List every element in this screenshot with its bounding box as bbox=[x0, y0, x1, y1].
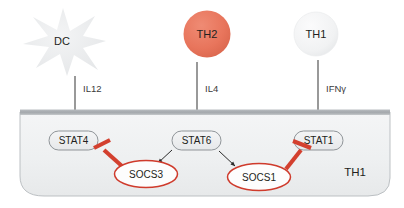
source-cell-th2: TH2 bbox=[184, 11, 231, 58]
stat-node-stat4: STAT4 bbox=[49, 131, 98, 150]
ifng-label: IFNγ bbox=[326, 83, 346, 94]
socs-node-socs1: SOCS1 bbox=[228, 164, 291, 191]
stat-node-stat1: STAT1 bbox=[294, 131, 343, 150]
th1-compartment-label: TH1 bbox=[344, 166, 366, 178]
il4-label: IL4 bbox=[205, 83, 218, 94]
source-cell-th1: TH1 bbox=[294, 12, 338, 56]
source-cell-dc: DC bbox=[23, 8, 106, 76]
th1-cell-body bbox=[20, 112, 390, 196]
socs1-label: SOCS1 bbox=[242, 172, 276, 183]
th2-label: TH2 bbox=[197, 28, 218, 40]
socs3-label: SOCS3 bbox=[129, 169, 163, 180]
stat1-label: STAT1 bbox=[304, 135, 334, 146]
dc-label: DC bbox=[54, 35, 70, 47]
stat4-label: STAT4 bbox=[59, 135, 89, 146]
il12-label: IL12 bbox=[83, 83, 102, 94]
stat-node-stat6: STAT6 bbox=[172, 131, 221, 150]
target-th1-cell: TH1 bbox=[20, 110, 390, 197]
plasma-membrane bbox=[20, 110, 390, 115]
th1-label: TH1 bbox=[306, 28, 327, 40]
socs-node-socs3: SOCS3 bbox=[115, 161, 178, 188]
signaling-diagram: DC TH2 TH1 IL12 IL4 IFNγ bbox=[0, 0, 404, 208]
stat6-label: STAT6 bbox=[182, 135, 212, 146]
